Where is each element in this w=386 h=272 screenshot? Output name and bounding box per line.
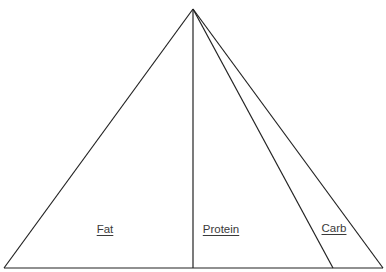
protein-label: Protein	[203, 224, 239, 236]
fat-label: Fat	[97, 224, 114, 236]
carb-label: Carb	[322, 223, 347, 235]
